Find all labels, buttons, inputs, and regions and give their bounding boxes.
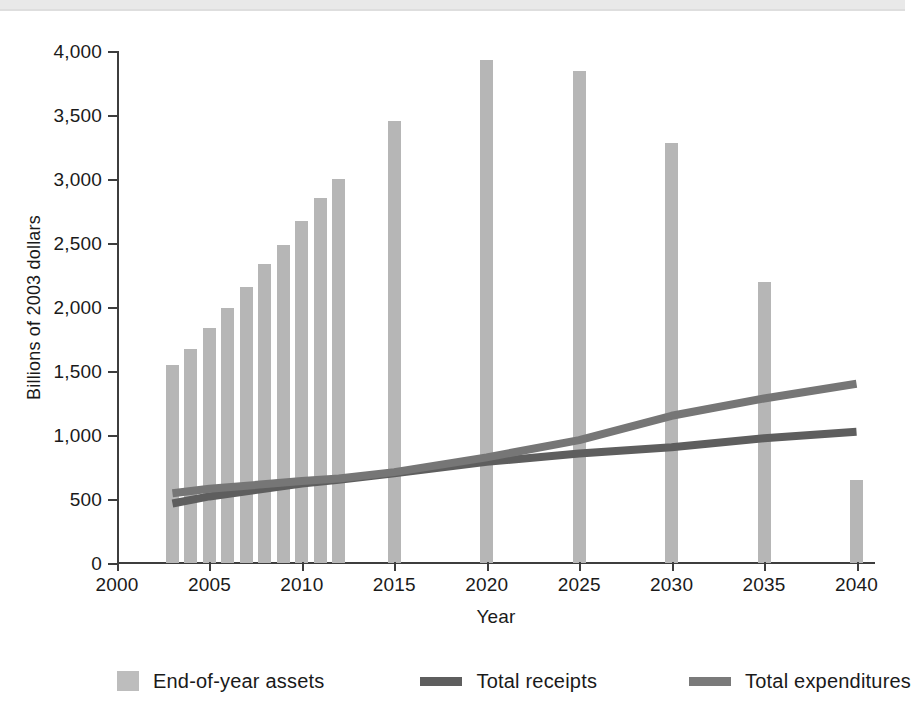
page-top-strip [0, 0, 905, 9]
plot-area: 05001,0001,5002,0002,5003,0003,5004,000 [117, 51, 875, 563]
x-tick-label: 2020 [465, 575, 508, 594]
y-tick-label: 2,500 [53, 234, 102, 253]
x-tick-label: 2015 [373, 575, 416, 594]
legend-line-swatch-icon [420, 677, 462, 686]
y-tick-label: 0 [91, 554, 102, 573]
x-tick-label: 2010 [280, 575, 323, 594]
x-tick-label: 2035 [743, 575, 786, 594]
x-tick-mark [394, 562, 396, 571]
x-tick-label: 2040 [835, 575, 878, 594]
legend-item[interactable]: End-of-year assets [117, 671, 324, 691]
y-tick-mark [108, 307, 117, 309]
x-tick-mark [302, 562, 304, 571]
x-tick-mark [857, 562, 859, 571]
legend-item-label: Total expenditures [745, 671, 911, 691]
x-tick-label: 2030 [650, 575, 693, 594]
x-tick-mark [764, 562, 766, 571]
y-tick-label: 500 [70, 490, 102, 509]
legend-bar-swatch-icon [117, 671, 139, 691]
x-tick-label: 2005 [188, 575, 231, 594]
y-tick-label: 1,500 [53, 362, 102, 381]
y-tick-mark [108, 115, 117, 117]
legend-item-label: End-of-year assets [153, 671, 324, 691]
y-tick-label: 1,000 [53, 426, 102, 445]
y-tick-mark [108, 51, 117, 53]
x-tick-label: 2025 [558, 575, 601, 594]
y-tick-label: 2,000 [53, 298, 102, 317]
y-axis-title: Billions of 2003 dollars [22, 51, 46, 563]
y-tick-label: 3,500 [53, 106, 102, 125]
y-tick-label: 4,000 [53, 42, 102, 61]
legend-item[interactable]: Total expenditures [689, 671, 911, 691]
y-tick-mark [108, 563, 117, 565]
legend-item[interactable]: Total receipts [420, 671, 597, 691]
y-tick-mark [108, 371, 117, 373]
y-tick-mark [108, 499, 117, 501]
x-tick-mark [672, 562, 674, 571]
x-axis-title: Year [117, 606, 875, 628]
x-tick-label: 2000 [95, 575, 138, 594]
x-tick-mark [579, 562, 581, 571]
chart-legend: End-of-year assetsTotal receiptsTotal ex… [117, 664, 877, 698]
x-tick-mark [487, 562, 489, 571]
x-tick-mark [209, 562, 211, 571]
y-axis-title-text: Billions of 2003 dollars [24, 215, 45, 400]
y-tick-mark [108, 179, 117, 181]
line-series [172, 432, 856, 504]
line-series-group [117, 51, 875, 563]
x-tick-mark [117, 562, 119, 571]
y-tick-mark [108, 435, 117, 437]
legend-line-swatch-icon [689, 677, 731, 686]
y-tick-mark [108, 243, 117, 245]
page-top-rule [0, 9, 905, 11]
y-tick-label: 3,000 [53, 170, 102, 189]
legend-item-label: Total receipts [476, 671, 597, 691]
